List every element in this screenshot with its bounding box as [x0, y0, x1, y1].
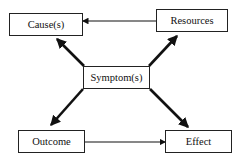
node-effect: Effect — [165, 130, 232, 153]
node-causes: Cause(s) — [9, 13, 83, 36]
edge-symptoms-to-resources — [149, 36, 177, 66]
node-symptoms: Symptom(s) — [83, 66, 150, 89]
node-outcome: Outcome — [18, 130, 85, 153]
node-causes-label: Cause(s) — [28, 19, 65, 30]
node-effect-label: Effect — [186, 136, 211, 147]
edge-symptoms-to-causes — [57, 39, 84, 66]
edge-symptoms-to-effect — [150, 89, 188, 127]
node-outcome-label: Outcome — [32, 136, 71, 147]
node-symptoms-label: Symptom(s) — [91, 72, 143, 83]
edge-symptoms-to-outcome — [51, 89, 83, 125]
node-resources-label: Resources — [170, 15, 213, 26]
node-resources: Resources — [156, 9, 228, 32]
